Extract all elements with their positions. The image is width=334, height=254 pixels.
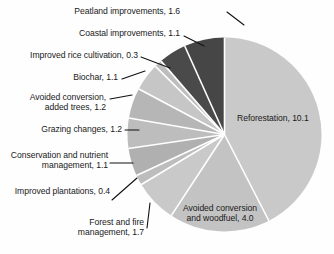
- slice-label-avoided-conversion-woodfuel-line2: and woodfuel, 4.0: [172, 213, 268, 223]
- leader-line-plantations: [112, 178, 137, 200]
- slice-label-grazing-changes: Grazing changes, 1.2: [28, 124, 122, 134]
- slice-label-coastal-improvements: Coastal improvements, 1.1: [40, 28, 180, 38]
- slice-label-peatland-improvements: Peatland improvements, 1.6: [62, 6, 180, 16]
- leader-line-added-trees: [110, 95, 132, 99]
- slice-label-reforestation: Reforestation, 10.1: [237, 113, 333, 123]
- leader-line-forest-fire: [147, 203, 150, 228]
- slice-label-conservation-nutrient-line2: management, 1.1: [2, 160, 108, 170]
- slice-label-improved-plantations: Improved plantations, 0.4: [4, 186, 110, 196]
- slice-label-forest-fire-management-line2: management, 1.7: [58, 227, 144, 237]
- leader-line-peatland: [227, 12, 244, 25]
- slice-label-conservation-nutrient-line1: Conservation and nutrient: [2, 150, 108, 160]
- slice-label-avoided-conversion-woodfuel-line1: Avoided conversion: [172, 203, 268, 213]
- leader-line-biochar: [122, 71, 145, 79]
- pie-chart-figure: Peatland improvements, 1.6 Coastal impro…: [0, 0, 334, 254]
- slice-label-biochar: Biochar, 1.1: [30, 72, 118, 82]
- slice-label-avoided-conversion-added-trees-line1: Avoided conversion,: [10, 92, 106, 102]
- slice-label-avoided-conversion-added-trees-line2: added trees, 1.2: [10, 102, 106, 112]
- slice-label-improved-rice-cultivation: Improved rice cultivation, 0.3: [8, 50, 138, 60]
- slice-label-forest-fire-management-line1: Forest and fire: [58, 217, 144, 227]
